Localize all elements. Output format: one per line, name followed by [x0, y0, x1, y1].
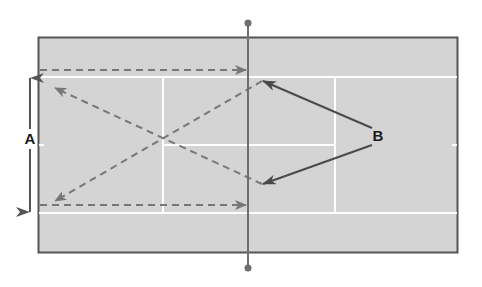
label-b: B — [373, 127, 384, 144]
net-post-top — [245, 20, 252, 27]
tennis-court-diagram: A B — [0, 0, 482, 287]
range-arrow-a: A — [25, 78, 36, 212]
label-a: A — [25, 130, 36, 147]
net-post-bottom — [245, 265, 252, 272]
